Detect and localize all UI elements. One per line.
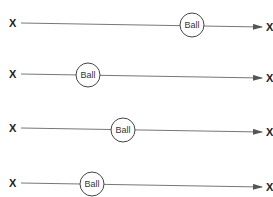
end-x-label: X bbox=[266, 181, 273, 193]
ball-label: Ball bbox=[184, 20, 199, 30]
arrow-line bbox=[21, 23, 262, 27]
end-x-label: X bbox=[266, 72, 273, 84]
arrow-line bbox=[21, 74, 262, 78]
row-2: X X Ball bbox=[9, 63, 273, 87]
ball-position-diagram: X X Ball X X Ball X X Ball X X Ball bbox=[0, 0, 273, 197]
arrow-line bbox=[21, 128, 262, 132]
ball-label: Ball bbox=[115, 125, 130, 135]
row-3: X X Ball bbox=[9, 118, 273, 142]
ball-label: Ball bbox=[80, 70, 95, 80]
row-4: X X Ball bbox=[9, 172, 273, 196]
start-x-label: X bbox=[9, 17, 17, 29]
start-x-label: X bbox=[9, 177, 17, 189]
end-x-label: X bbox=[266, 21, 273, 33]
end-x-label: X bbox=[266, 126, 273, 138]
start-x-label: X bbox=[9, 68, 17, 80]
ball-label: Ball bbox=[84, 179, 99, 189]
row-1: X X Ball bbox=[9, 13, 273, 37]
arrow-line bbox=[21, 183, 262, 187]
start-x-label: X bbox=[9, 122, 17, 134]
